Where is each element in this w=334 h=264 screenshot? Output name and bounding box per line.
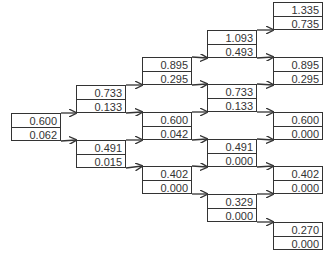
node-option-value: 0.493 bbox=[208, 45, 256, 59]
node-value: 0.329 bbox=[208, 195, 256, 209]
arrow-icon bbox=[257, 57, 273, 58]
node-option-value: 0.000 bbox=[274, 127, 322, 141]
node-value: 0.270 bbox=[274, 223, 322, 237]
node-value: 0.600 bbox=[274, 113, 322, 127]
node-option-value: 0.295 bbox=[274, 72, 322, 86]
node-value: 0.733 bbox=[208, 85, 256, 99]
node-value: 0.600 bbox=[143, 113, 191, 127]
arrow-icon bbox=[126, 112, 142, 113]
tree-node-n0_0: 0.6000.062 bbox=[11, 113, 61, 141]
node-value: 1.335 bbox=[274, 3, 322, 17]
arrow-icon bbox=[126, 166, 142, 168]
node-option-value: 0.000 bbox=[143, 181, 191, 195]
node-value: 0.733 bbox=[77, 86, 125, 100]
arrow-icon bbox=[192, 84, 207, 85]
tree-node-n2_2: 0.4020.000 bbox=[142, 166, 192, 194]
arrow-icon bbox=[192, 166, 207, 167]
arrow-icon bbox=[192, 57, 207, 58]
tree-node-n4_2: 0.6000.000 bbox=[273, 112, 323, 140]
node-option-value: 0.000 bbox=[274, 237, 322, 251]
arrow-icon bbox=[257, 166, 273, 167]
arrow-icon bbox=[257, 84, 273, 85]
node-value: 0.600 bbox=[12, 114, 60, 128]
tree-node-n4_1: 0.8950.295 bbox=[273, 57, 323, 85]
tree-node-n2_0: 0.8950.295 bbox=[142, 57, 192, 85]
node-option-value: 0.062 bbox=[12, 128, 60, 142]
node-option-value: 0.015 bbox=[77, 155, 125, 169]
node-option-value: 0.133 bbox=[77, 100, 125, 114]
node-value: 0.402 bbox=[143, 167, 191, 181]
tree-node-n1_1: 0.4910.015 bbox=[76, 140, 126, 168]
tree-node-n3_1: 0.7330.133 bbox=[207, 84, 257, 112]
node-value: 0.895 bbox=[143, 58, 191, 72]
node-value: 1.093 bbox=[208, 31, 256, 45]
arrow-icon bbox=[192, 139, 207, 140]
tree-node-n1_0: 0.7330.133 bbox=[76, 85, 126, 113]
node-option-value: 0.042 bbox=[143, 127, 191, 141]
node-option-value: 0.000 bbox=[208, 154, 256, 168]
tree-node-n4_0: 1.3350.735 bbox=[273, 2, 323, 30]
tree-node-n3_0: 1.0930.493 bbox=[207, 30, 257, 58]
node-value: 0.491 bbox=[208, 140, 256, 154]
tree-node-n4_3: 0.4020.000 bbox=[273, 166, 323, 194]
tree-node-n4_4: 0.2700.000 bbox=[273, 222, 323, 250]
node-option-value: 0.000 bbox=[208, 209, 256, 223]
node-value: 0.491 bbox=[77, 141, 125, 155]
node-option-value: 0.735 bbox=[274, 17, 322, 31]
tree-node-n3_2: 0.4910.000 bbox=[207, 139, 257, 167]
arrow-icon bbox=[257, 139, 273, 140]
node-option-value: 0.133 bbox=[208, 99, 256, 113]
arrow-icon bbox=[61, 140, 76, 141]
node-option-value: 0.295 bbox=[143, 72, 191, 86]
node-value: 0.402 bbox=[274, 167, 322, 181]
tree-node-n2_1: 0.6000.042 bbox=[142, 112, 192, 140]
node-value: 0.895 bbox=[274, 58, 322, 72]
tree-node-n3_3: 0.3290.000 bbox=[207, 194, 257, 222]
node-option-value: 0.000 bbox=[274, 181, 322, 195]
binomial-tree-diagram: 0.6000.0620.7330.1330.4910.0150.8950.295… bbox=[0, 0, 334, 264]
